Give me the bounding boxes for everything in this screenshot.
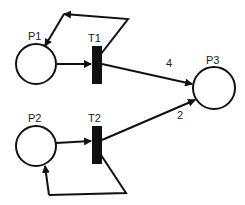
arc-t1-p3: 4	[102, 57, 192, 84]
place-p2-label: P2	[28, 112, 41, 124]
petri-net-diagram: P1 P2 P3 T1 T2 4 2	[0, 0, 245, 205]
arc-t2-p2	[45, 155, 126, 195]
transition-t2: T2	[88, 112, 102, 164]
arc-p2-t2	[56, 141, 91, 143]
transition-t2-label: T2	[88, 112, 101, 124]
arc-t1-p3-weight: 4	[166, 57, 172, 69]
place-p2: P2	[16, 112, 56, 166]
arc-t1-p1	[45, 14, 128, 54]
place-p1-label: P1	[28, 30, 41, 42]
transition-t1-label: T1	[88, 32, 101, 44]
place-p3: P3	[193, 54, 235, 109]
transition-t1: T1	[88, 32, 102, 84]
arc-t2-p3-weight: 2	[177, 109, 183, 121]
place-p3-label: P3	[206, 54, 219, 66]
arc-t2-p3: 2	[102, 100, 195, 140]
